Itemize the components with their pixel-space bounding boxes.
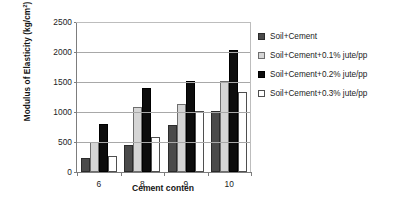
bar-9-series-0 <box>168 125 177 172</box>
y-tick-mark-1000 <box>74 112 78 113</box>
legend-label-0: Soil+Cement <box>270 32 317 41</box>
x-tick-mark-3 <box>208 172 209 176</box>
bar-6-series-3 <box>108 156 117 172</box>
bar-8-series-1 <box>133 107 142 172</box>
bar-8-series-0 <box>124 145 133 172</box>
bar-group-9: 9 <box>164 22 208 172</box>
x-tick-mark-1 <box>121 172 122 176</box>
y-tick-mark-2000 <box>74 52 78 53</box>
bar-9-series-1 <box>177 104 186 172</box>
bar-group-6: 6 <box>77 22 121 172</box>
gridline-2000 <box>77 52 251 53</box>
y-axis-title: Modulus of Elasticity (kg/cm2) <box>22 0 33 136</box>
legend-swatch-1 <box>258 52 265 59</box>
bar-10-series-3 <box>238 92 247 172</box>
legend-swatch-2 <box>258 71 265 78</box>
bar-chart: Modulus of Elasticity (kg/cm2) 68910 050… <box>0 0 397 202</box>
legend-label-2: Soil+Cement+0.2% jute/pp <box>270 70 367 79</box>
y-tick-mark-1500 <box>74 82 78 83</box>
gridline-1000 <box>77 112 251 113</box>
legend-item-2: Soil+Cement+0.2% jute/pp <box>258 65 397 84</box>
y-tick-label-500: 500 <box>58 137 72 147</box>
y-tick-label-2500: 2500 <box>53 17 72 27</box>
x-tick-mark-2 <box>164 172 165 176</box>
legend-item-0: Soil+Cement <box>258 27 397 46</box>
x-axis-title: Cement conten <box>76 183 250 193</box>
bar-groups: 68910 <box>77 22 251 172</box>
bar-group-10: 10 <box>208 22 252 172</box>
legend-swatch-3 <box>258 90 265 97</box>
y-tick-label-2000: 2000 <box>53 47 72 57</box>
bar-6-series-1 <box>90 142 99 172</box>
x-tick-mark-4 <box>251 172 252 176</box>
y-tick-label-0: 0 <box>67 167 72 177</box>
y-tick-label-1000: 1000 <box>53 107 72 117</box>
legend-item-1: Soil+Cement+0.1% jute/pp <box>258 46 397 65</box>
y-tick-mark-500 <box>74 142 78 143</box>
bar-9-series-2 <box>186 81 195 172</box>
bar-10-series-1 <box>220 81 229 172</box>
legend-label-3: Soil+Cement+0.3% jute/pp <box>270 89 367 98</box>
y-axis-title-tail: ) <box>23 2 32 5</box>
legend-label-1: Soil+Cement+0.1% jute/pp <box>270 51 367 60</box>
legend-item-3: Soil+Cement+0.3% jute/pp <box>258 84 397 103</box>
gridline-1500 <box>77 82 251 83</box>
y-axis-title-text: Modulus of Elasticity (kg/cm <box>23 8 32 121</box>
legend-swatch-0 <box>258 33 265 40</box>
y-axis-title-superscript: 2 <box>22 4 28 7</box>
plot-area: 68910 05001000150020002500 <box>76 22 251 173</box>
bar-8-series-2 <box>142 88 151 172</box>
gridline-500 <box>77 142 251 143</box>
bar-6-series-2 <box>99 124 108 172</box>
chart-legend: Soil+CementSoil+Cement+0.1% jute/ppSoil+… <box>258 27 397 103</box>
bar-6-series-0 <box>81 158 90 172</box>
x-tick-mark-0 <box>77 172 78 176</box>
plot-frame-top-border <box>76 22 250 23</box>
y-tick-label-1500: 1500 <box>53 77 72 87</box>
bar-group-8: 8 <box>121 22 165 172</box>
plot-frame-right-border <box>250 22 251 172</box>
